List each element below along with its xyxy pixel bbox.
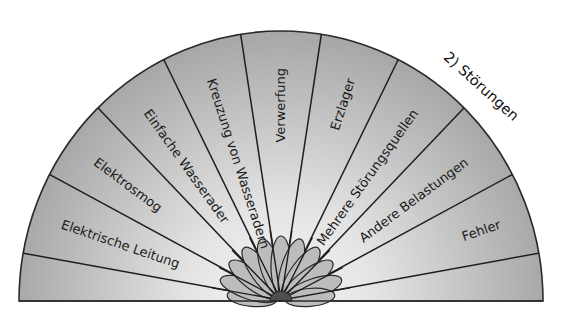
pendulum-chart-half-dial: Elektrische LeitungElektrosmogEinfache W… bbox=[0, 0, 564, 321]
sector-label: Verwerfung bbox=[273, 68, 288, 143]
